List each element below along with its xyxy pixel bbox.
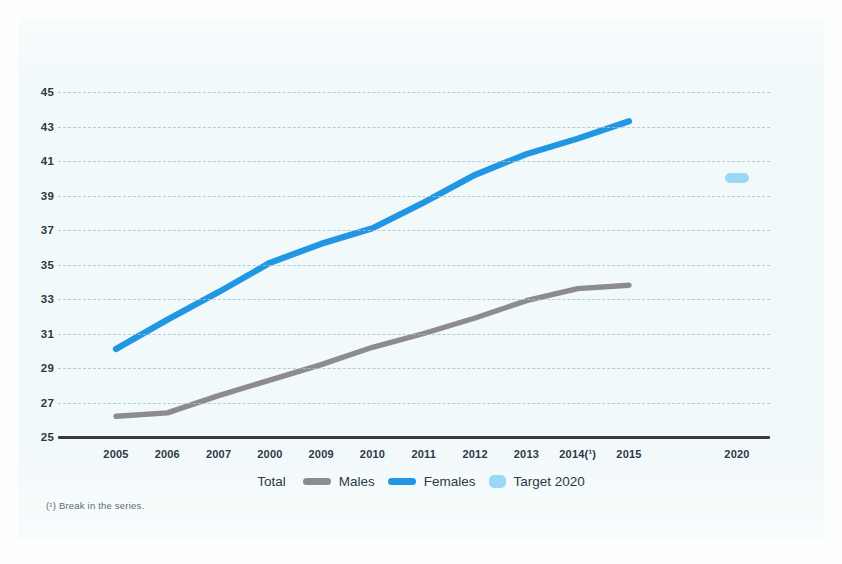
x-tick-label-2006: 2006	[155, 448, 180, 460]
x-axis-line	[58, 436, 770, 439]
x-tick-label-2020: 2020	[724, 448, 749, 460]
x-tick-label-2014: 2014(¹)	[559, 448, 596, 460]
chart-page: 4543413937353331292725 20052006200720002…	[0, 0, 842, 564]
gridline-35	[58, 265, 770, 266]
y-tick-label-35: 35	[18, 259, 54, 271]
x-tick-label-2007: 2007	[206, 448, 231, 460]
x-tick-label-2015: 2015	[616, 448, 641, 460]
legend-label-males: Males	[339, 474, 375, 489]
gridline-29	[58, 368, 770, 369]
legend-swatch-target-icon	[489, 475, 506, 488]
legend-swatch-females-icon	[388, 478, 416, 485]
gridline-33	[58, 299, 770, 300]
legend-label-target-2020: Target 2020	[514, 474, 585, 489]
chart-legend: Total Males Females Target 2020	[0, 474, 842, 489]
x-tick-label-2009: 2009	[309, 448, 334, 460]
y-tick-label-41: 41	[18, 155, 54, 167]
y-tick-label-29: 29	[18, 362, 54, 374]
x-tick-label-2011: 2011	[411, 448, 436, 460]
target-2020-marker	[725, 173, 749, 183]
x-tick-label-2000: 2000	[257, 448, 282, 460]
gridline-45	[58, 92, 770, 93]
x-tick-label-2013: 2013	[514, 448, 539, 460]
legend-item-females[interactable]: Females	[388, 474, 476, 489]
gridline-27	[58, 403, 770, 404]
gridline-43	[58, 127, 770, 128]
y-tick-label-39: 39	[18, 190, 54, 202]
y-tick-label-37: 37	[18, 224, 54, 236]
x-tick-label-2010: 2010	[360, 448, 385, 460]
legend-item-males[interactable]: Males	[303, 474, 375, 489]
legend-swatch-males-icon	[303, 478, 331, 485]
y-tick-label-27: 27	[18, 397, 54, 409]
legend-item-target-2020[interactable]: Target 2020	[489, 474, 585, 489]
y-tick-label-33: 33	[18, 293, 54, 305]
x-tick-label-2012: 2012	[462, 448, 487, 460]
y-tick-label-31: 31	[18, 328, 54, 340]
y-tick-label-43: 43	[18, 121, 54, 133]
gridline-31	[58, 334, 770, 335]
gridline-39	[58, 196, 770, 197]
y-tick-label-25: 25	[18, 431, 54, 443]
x-tick-label-2005: 2005	[103, 448, 128, 460]
y-tick-label-45: 45	[18, 86, 54, 98]
gridline-37	[58, 230, 770, 231]
legend-label-females: Females	[424, 474, 476, 489]
series-line-females	[116, 121, 629, 349]
chart-footnote: (¹) Break in the series.	[46, 500, 144, 511]
gridline-41	[58, 161, 770, 162]
legend-title: Total	[257, 474, 286, 489]
